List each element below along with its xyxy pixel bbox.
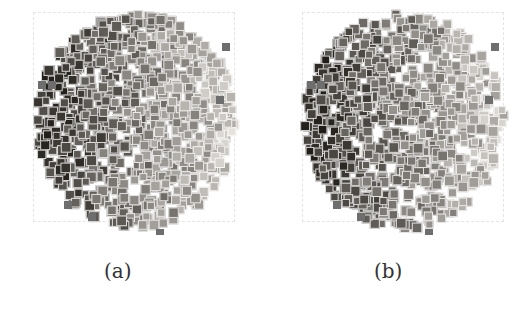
caption-b: (b)	[374, 259, 402, 283]
thumbnail-scatter-a	[24, 1, 248, 235]
thumbnail-scatter-b	[293, 1, 517, 235]
panel-b	[302, 12, 504, 222]
panel-a	[33, 12, 235, 222]
caption-a: (a)	[104, 259, 132, 283]
